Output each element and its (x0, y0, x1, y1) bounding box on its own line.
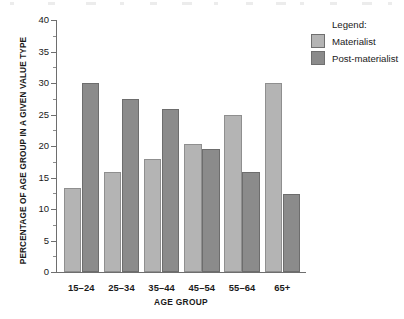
x-category-label: 15–24 (68, 282, 95, 293)
bar-post-materialist-25-34 (122, 99, 140, 272)
legend-label: Post-materialist (332, 53, 398, 64)
y-tick-mark (51, 83, 56, 84)
y-tick-label: 20 (38, 141, 49, 151)
x-category-label: 35–44 (148, 282, 175, 293)
legend: Legend: MaterialistPost-materialist (311, 19, 403, 68)
bar-post-materialist-65+ (283, 194, 301, 272)
scan-speck (150, 2, 157, 5)
y-tick-mark (51, 272, 56, 273)
scan-artifacts (0, 0, 404, 10)
scan-speck (330, 2, 337, 5)
y-minor-tick-mark (53, 36, 56, 37)
y-tick-mark (51, 20, 56, 21)
bar-post-materialist-15-24 (82, 83, 100, 272)
x-category-label: 55–64 (229, 282, 256, 293)
y-minor-tick-mark (53, 256, 56, 257)
scan-speck (300, 2, 304, 5)
y-tick-mark (51, 146, 56, 147)
y-minor-tick-mark (53, 130, 56, 131)
bar-post-materialist-45-54 (202, 149, 220, 272)
bar-post-materialist-55-64 (242, 172, 260, 272)
y-tick-label: 35 (38, 47, 49, 57)
legend-swatch-icon (311, 34, 325, 48)
y-tick-mark (51, 115, 56, 116)
legend-entries: MaterialistPost-materialist (311, 34, 403, 65)
scan-speck (120, 2, 124, 5)
x-category-label: 65+ (274, 282, 290, 293)
y-tick-label: 10 (38, 204, 49, 214)
y-minor-tick-mark (53, 193, 56, 194)
y-minor-tick-mark (53, 162, 56, 163)
x-axis-line (56, 272, 306, 273)
y-tick-mark (51, 209, 56, 210)
y-minor-tick-mark (53, 67, 56, 68)
y-minor-tick-mark (53, 99, 56, 100)
bar-post-materialist-35-44 (162, 109, 180, 272)
legend-title: Legend: (332, 19, 403, 30)
bar-materialist-15-24 (64, 188, 82, 272)
bar-materialist-25-34 (104, 172, 122, 272)
y-tick-label: 5 (44, 236, 49, 246)
bar-chart-figure: PERCENTAGE OF AGE GROUP IN A GIVEN VALUE… (0, 0, 404, 319)
scan-speck (182, 2, 192, 5)
bar-materialist-55-64 (224, 115, 242, 272)
x-category-label: 25–34 (108, 282, 135, 293)
scan-speck (10, 2, 14, 5)
bar-materialist-65+ (265, 83, 283, 272)
y-tick-mark (51, 178, 56, 179)
scan-speck (48, 2, 55, 5)
legend-item: Materialist (311, 34, 403, 48)
x-axis-title: AGE GROUP (56, 297, 306, 307)
plot-area: 0510152025303540 15–2425–3435–4445–5455–… (56, 20, 305, 272)
y-axis-line (56, 20, 57, 273)
y-tick-label: 0 (44, 267, 49, 277)
y-tick-label: 25 (38, 110, 49, 120)
scan-speck (276, 2, 286, 5)
y-tick-mark (51, 241, 56, 242)
scan-speck (214, 2, 218, 5)
y-minor-tick-mark (53, 225, 56, 226)
y-axis-title: PERCENTAGE OF AGE GROUP IN A GIVEN VALUE… (19, 26, 28, 276)
y-tick-label: 40 (38, 15, 49, 25)
scan-speck (362, 2, 372, 5)
y-tick-mark (51, 52, 56, 53)
bar-materialist-45-54 (184, 144, 202, 272)
legend-swatch-icon (311, 51, 325, 65)
y-tick-label: 15 (38, 173, 49, 183)
scan-speck (246, 2, 253, 5)
y-tick-label: 30 (38, 78, 49, 88)
bar-materialist-35-44 (144, 159, 162, 272)
x-category-label: 45–54 (189, 282, 216, 293)
scan-speck (86, 2, 96, 5)
scan-speck (388, 2, 392, 5)
legend-item: Post-materialist (311, 51, 403, 65)
legend-label: Materialist (332, 36, 376, 47)
